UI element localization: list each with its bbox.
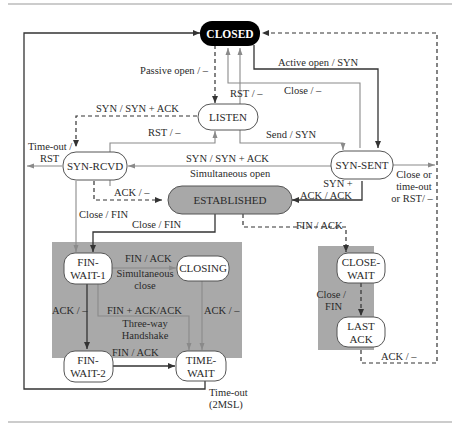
label-simultaneous-open: SYN / SYN + ACK — [186, 153, 269, 164]
state-closing-label: CLOSING — [179, 262, 227, 274]
state-close-wait-label-1: CLOSE- — [342, 256, 381, 268]
state-time-wait-label-2: WAIT — [187, 367, 215, 379]
label-close-timeout-2: time-out — [396, 181, 432, 192]
label-send-syn: Send / SYN — [266, 129, 317, 140]
label-fin-ack-closing: FIN / ACK — [125, 253, 172, 264]
label-close-timeout-1: Close or — [396, 169, 432, 180]
label-close-fin-established: Close / FIN — [132, 219, 181, 230]
label-passive-open: Passive open / – — [140, 65, 209, 76]
label-fin-ack-ack: FIN + ACK/ACK — [107, 305, 182, 316]
state-fin-wait-1-label-1: FIN- — [77, 256, 99, 268]
label-close-timeout-3: or RST/ – — [391, 193, 433, 204]
label-ack-closing: ACK / – — [204, 305, 240, 316]
state-last-ack-label-2: ACK — [349, 333, 372, 345]
state-syn-rcvd-label: SYN-RCVD — [67, 160, 123, 172]
state-closed-label: CLOSED — [206, 28, 253, 40]
label-simultaneous-open-caption: Simultaneous open — [190, 168, 271, 179]
label-synack-ack-2: ACK / ACK — [300, 190, 352, 201]
label-simultaneous-close-1: Simultaneous — [116, 268, 173, 279]
state-established: ESTABLISHED — [168, 186, 292, 214]
label-synack-ack-1: SYN + — [323, 178, 353, 189]
label-timeout-rst-2: RST — [40, 153, 60, 164]
label-rst-listen: RST / – — [230, 88, 263, 99]
label-three-way-2: Handshake — [122, 330, 169, 341]
state-time-wait-label-1: TIME- — [186, 354, 217, 366]
label-ack-fw1: ACK / – — [52, 305, 88, 316]
state-closing: CLOSING — [177, 256, 229, 281]
label-close-fin-synrcvd: Close / FIN — [79, 209, 128, 220]
label-fin-ack-closewait: FIN / ACK — [296, 220, 343, 231]
label-three-way-1: Three-way — [122, 318, 168, 329]
state-last-ack-label-1: LAST — [347, 320, 375, 332]
state-listen-label: LISTEN — [209, 111, 247, 123]
label-ack-established: ACK / – — [114, 187, 150, 198]
state-fin-wait-2-label-2: WAIT-2 — [70, 367, 106, 379]
label-simultaneous-close-2: close — [134, 280, 156, 291]
state-close-wait: CLOSE- WAIT — [337, 253, 385, 283]
state-last-ack: LAST ACK — [337, 317, 385, 347]
state-listen: LISTEN — [198, 104, 258, 130]
state-fin-wait-2-label-1: FIN- — [77, 354, 99, 366]
label-close-fin-closewait-2: FIN — [325, 301, 342, 312]
label-syn-synack: SYN / SYN + ACK — [96, 103, 179, 114]
state-time-wait: TIME- WAIT — [176, 351, 226, 381]
state-fin-wait-1-label-2: WAIT-1 — [70, 269, 106, 281]
label-timeout-2msl-2: (2MSL) — [209, 399, 243, 411]
label-ack-lastack: ACK / – — [381, 351, 417, 362]
label-timeout-rst-1: Time-out / — [28, 141, 72, 152]
tcp-state-diagram: CLOSED LISTEN SYN-RCVD SYN-SENT ESTABLIS… — [0, 0, 462, 427]
state-syn-sent-label: SYN-SENT — [335, 159, 388, 171]
state-fin-wait-1: FIN- WAIT-1 — [64, 253, 112, 284]
label-active-open: Active open / SYN — [278, 57, 359, 68]
label-rst-synrcvd: RST / – — [148, 127, 181, 138]
state-close-wait-label-2: WAIT — [347, 269, 375, 281]
state-closed: CLOSED — [200, 21, 260, 46]
label-timeout-2msl-1: Time-out — [209, 387, 248, 398]
state-syn-rcvd: SYN-RCVD — [63, 152, 127, 180]
state-established-label: ESTABLISHED — [193, 194, 266, 206]
state-syn-sent: SYN-SENT — [331, 151, 393, 179]
state-fin-wait-2: FIN- WAIT-2 — [64, 351, 113, 382]
label-close-fin-closewait-1: Close / — [317, 289, 347, 300]
label-fin-ack-fw2: FIN / ACK — [112, 347, 159, 358]
label-close-listen: Close / – — [284, 85, 322, 96]
